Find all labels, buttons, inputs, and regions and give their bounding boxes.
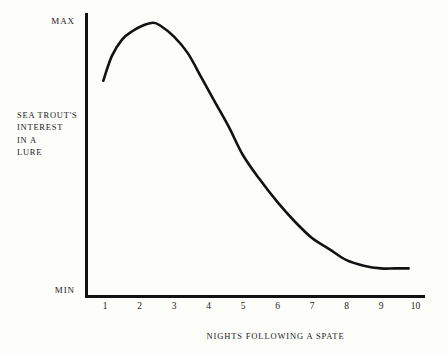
x-axis-tick-labels: 12345678910	[85, 301, 430, 317]
y-axis-title: Sea Trout's Interest In a Lure	[17, 109, 83, 159]
y-axis-title-line-2: Interest	[17, 121, 83, 133]
y-axis-title-line-3: In a	[17, 134, 83, 146]
x-axis-tick-1: 1	[94, 301, 116, 311]
x-axis-tick-8: 8	[336, 301, 358, 311]
x-axis-tick-6: 6	[267, 301, 289, 311]
x-axis-title: Nights Following a Spate	[0, 331, 447, 341]
x-axis-tick-5: 5	[232, 301, 254, 311]
y-axis-line	[85, 13, 88, 298]
y-axis-max-label: Max	[51, 16, 75, 26]
x-axis-tick-4: 4	[198, 301, 220, 311]
y-axis-title-line-1: Sea Trout's	[17, 109, 83, 121]
x-axis-tick-3: 3	[163, 301, 185, 311]
y-axis-min-label: Min	[55, 285, 75, 295]
y-axis-title-line-4: Lure	[17, 146, 83, 158]
chart-figure: Max Min Sea Trout's Interest In a Lure 1…	[0, 0, 447, 354]
x-axis-tick-10: 10	[405, 301, 427, 311]
x-axis-line	[85, 295, 425, 298]
x-axis-tick-7: 7	[301, 301, 323, 311]
interest-curve-line	[103, 23, 408, 269]
x-axis-tick-9: 9	[370, 301, 392, 311]
x-axis-tick-2: 2	[129, 301, 151, 311]
